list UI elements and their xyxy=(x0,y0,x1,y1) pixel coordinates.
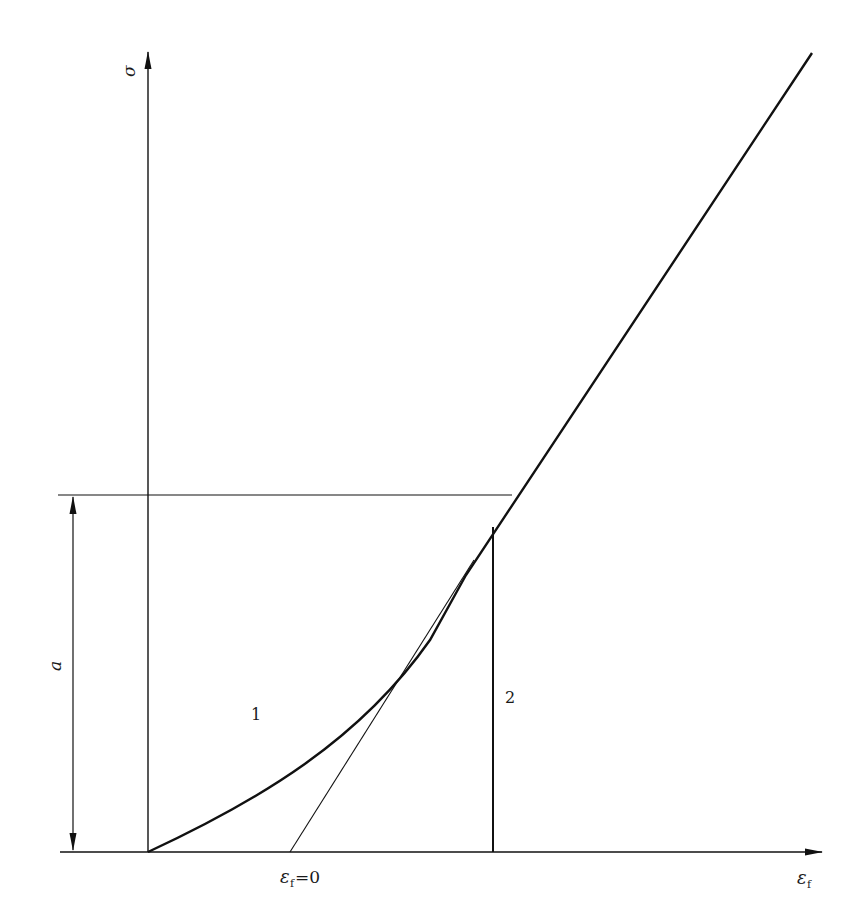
x-axis-label: ε f xyxy=(797,867,812,891)
tangent-line xyxy=(290,560,474,852)
dimension-label: a xyxy=(45,661,65,671)
svg-text:ε: ε xyxy=(797,867,807,888)
intercept-label: ε f =0 xyxy=(280,866,320,890)
stress-strain-diagram: σ a 1 2 ε f =0 ε f xyxy=(0,0,866,908)
curve-1 xyxy=(148,53,812,852)
y-axis-label: σ xyxy=(119,65,139,77)
svg-text:f: f xyxy=(807,878,812,891)
svg-text:ε: ε xyxy=(280,866,290,887)
svg-text:=0: =0 xyxy=(295,867,320,887)
curve-label-2: 2 xyxy=(505,688,515,707)
curve-label-1: 1 xyxy=(251,705,261,724)
